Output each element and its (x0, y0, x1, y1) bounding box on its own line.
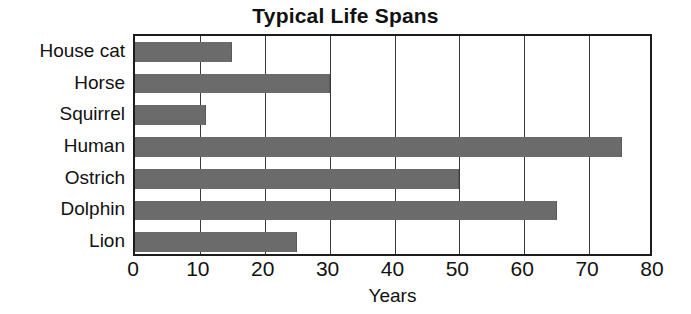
x-tick-label: 80 (640, 258, 663, 279)
x-tick-label: 60 (511, 258, 534, 279)
bar (135, 42, 232, 62)
x-tick-label: 20 (251, 258, 274, 279)
category-label: Squirrel (0, 104, 129, 123)
x-axis-title: Years (133, 285, 652, 307)
x-tick-label: 30 (316, 258, 339, 279)
category-axis-labels: House catHorseSquirrelHumanOstrichDolphi… (0, 34, 129, 256)
category-label: Ostrich (0, 168, 129, 187)
bar-row (135, 169, 650, 189)
bar-row (135, 232, 650, 252)
bar (135, 169, 459, 189)
x-tick-label: 40 (381, 258, 404, 279)
x-tick-label: 0 (127, 258, 139, 279)
bars-layer (135, 36, 650, 254)
bar-row (135, 201, 650, 221)
category-label: Horse (0, 73, 129, 92)
category-label: Lion (0, 231, 129, 250)
bar-chart: Typical Life Spans House catHorseSquirre… (0, 0, 691, 314)
bar (135, 74, 330, 94)
bar (135, 137, 622, 157)
bar (135, 105, 206, 125)
plot-area (133, 34, 652, 256)
bar (135, 201, 557, 221)
x-tick-label: 50 (446, 258, 469, 279)
x-tick-label: 10 (186, 258, 209, 279)
bar-row (135, 105, 650, 125)
category-label: House cat (0, 41, 129, 60)
bar (135, 232, 297, 252)
category-label: Dolphin (0, 199, 129, 218)
chart-title: Typical Life Spans (0, 4, 691, 28)
bar-row (135, 137, 650, 157)
x-tick-label: 70 (575, 258, 598, 279)
bar-row (135, 42, 650, 62)
category-label: Human (0, 136, 129, 155)
bar-row (135, 74, 650, 94)
